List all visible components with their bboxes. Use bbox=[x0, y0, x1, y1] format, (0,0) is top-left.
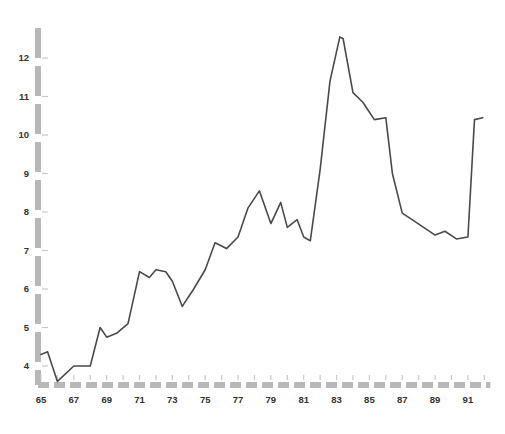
x-axis-tick-label: 67 bbox=[69, 395, 80, 405]
x-axis-tick-label: 75 bbox=[200, 395, 211, 405]
x-axis-tick-label: 73 bbox=[167, 395, 178, 405]
x-axis-tick-label: 69 bbox=[101, 395, 112, 405]
y-axis-tick-label: 11 bbox=[0, 92, 29, 102]
data-series-group bbox=[41, 37, 483, 382]
y-axis-tick-marks bbox=[42, 58, 48, 366]
y-axis-tick-label: 10 bbox=[0, 130, 29, 140]
x-axis-tick-label: 77 bbox=[233, 395, 244, 405]
series-line-1 bbox=[41, 37, 483, 382]
x-axis-tick-label: 65 bbox=[36, 395, 47, 405]
y-axis-tick-label: 4 bbox=[0, 361, 29, 371]
y-axis-tick-label: 6 bbox=[0, 284, 29, 294]
x-axis-tick-label: 91 bbox=[463, 395, 474, 405]
y-axis-tick-label: 5 bbox=[0, 323, 29, 333]
chart-plot-area bbox=[0, 0, 505, 434]
x-axis-tick-label: 79 bbox=[266, 395, 277, 405]
x-axis-tick-label: 71 bbox=[134, 395, 145, 405]
x-axis-tick-label: 87 bbox=[397, 395, 408, 405]
y-axis-tick-label: 8 bbox=[0, 207, 29, 217]
x-axis-tick-label: 81 bbox=[298, 395, 309, 405]
y-axis-tick-label: 7 bbox=[0, 246, 29, 256]
line-chart: 456789101112 656769717375777981838587899… bbox=[0, 0, 505, 434]
y-axis-tick-label: 9 bbox=[0, 169, 29, 179]
x-axis-tick-marks bbox=[41, 375, 484, 380]
x-axis-tick-label: 89 bbox=[430, 395, 441, 405]
y-axis-tick-label: 12 bbox=[0, 53, 29, 63]
x-axis-tick-label: 85 bbox=[364, 395, 375, 405]
x-axis-tick-label: 83 bbox=[331, 395, 342, 405]
